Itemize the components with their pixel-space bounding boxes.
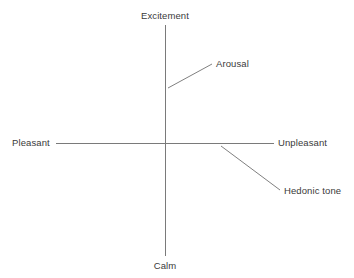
hedonic-tone-leader-line bbox=[221, 146, 280, 190]
affect-circumplex-diagram: Excitement Calm Pleasant Unpleasant Arou… bbox=[0, 0, 354, 278]
axis-label-calm: Calm bbox=[0, 260, 330, 271]
annotation-label-hedonic-tone: Hedonic tone bbox=[284, 185, 341, 196]
arousal-leader-line bbox=[168, 64, 212, 88]
annotation-label-arousal: Arousal bbox=[216, 58, 249, 69]
axis-label-excitement: Excitement bbox=[0, 10, 330, 21]
axis-label-pleasant: Pleasant bbox=[12, 137, 50, 148]
axis-label-unpleasant: Unpleasant bbox=[278, 137, 327, 148]
